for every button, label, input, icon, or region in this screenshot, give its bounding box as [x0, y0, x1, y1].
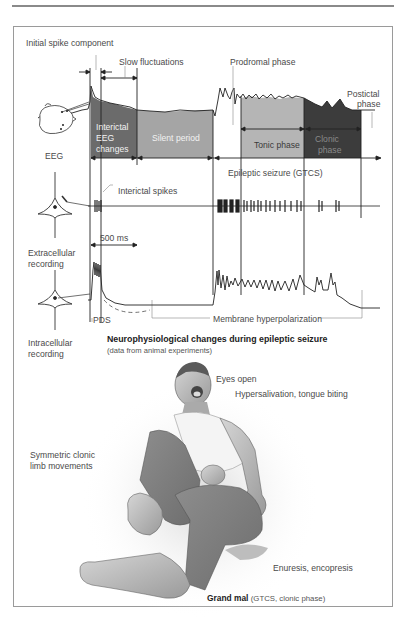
postictal-label-2: phase [357, 99, 380, 109]
limb-movements-label-1: Symmetric clonic [30, 450, 95, 460]
time-scale-label: 500 ms [100, 233, 128, 243]
silent-period-label: Silent period [152, 133, 200, 143]
patient-illustration [80, 362, 320, 620]
figure-subtitle: (data from animal experiments) [107, 346, 212, 355]
rat-head-icon [39, 104, 76, 134]
clonic-phase-label-1: Clonic [315, 134, 339, 144]
eyes-open-label: Eyes open [216, 374, 257, 384]
interictal-spikes-label: Interictal spikes [118, 186, 177, 196]
caption-rest: (GTCS, clonic phase) [251, 594, 326, 603]
clonic-phase-label-2: phase [318, 145, 341, 155]
figure-caption: Grand mal (GTCS, clonic phase) [207, 593, 325, 603]
initial-spike-label: Initial spike component [26, 38, 113, 48]
limb-movements-label-2: limb movements [30, 461, 93, 471]
figure-title: Neurophysiological changes during epilep… [107, 334, 327, 344]
prodromal-phase-label: Prodromal phase [230, 57, 295, 67]
caption-bold: Grand mal [207, 593, 248, 603]
interictal-eeg-label-3: changes [96, 144, 129, 154]
extracellular-label-2: recording [28, 259, 64, 269]
intracellular-label-1: Intracellular [28, 338, 72, 348]
slow-fluctuations-label: Slow fluctuations [119, 57, 184, 67]
eeg-label: EEG [45, 151, 63, 161]
postictal-label-1: Postictal [347, 89, 379, 99]
neuron-extracellular-icon [38, 172, 90, 238]
interictal-eeg-label-2: EEG [96, 133, 114, 143]
hypersalivation-label: Hypersalivation, tongue biting [235, 389, 348, 399]
pds-label: PDS [93, 315, 111, 325]
interictal-eeg-label-1: Interictal [96, 122, 128, 132]
tonic-phase-label: Tonic phase [254, 140, 300, 150]
neuron-intracellular-icon [38, 270, 90, 330]
intracellular-label-2: recording [28, 349, 64, 359]
extracellular-label-1: Extracellular [28, 248, 75, 258]
membrane-hyperpolarization-label: Membrane hyperpolarization [213, 314, 322, 324]
intracellular-trace [88, 262, 380, 308]
epileptic-seizure-label: Epileptic seizure (GTCS) [228, 168, 323, 178]
enuresis-label: Enuresis, encopresis [273, 563, 353, 573]
